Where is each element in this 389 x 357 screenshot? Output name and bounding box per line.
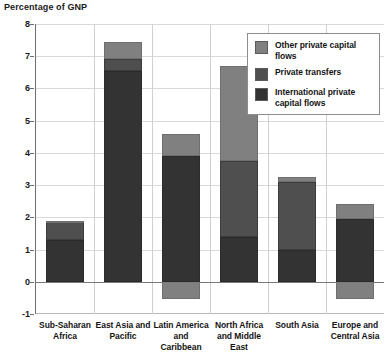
legend-item: Other private capital flows <box>255 40 373 61</box>
chart-axis-title: Percentage of GNP <box>4 2 87 12</box>
y-tick-mark <box>30 24 34 25</box>
legend-label: International private capital flows <box>275 87 373 108</box>
y-tick-mark <box>30 88 34 89</box>
chart-container: Percentage of GNP -1012345678 Sub-Sahara… <box>0 0 389 357</box>
chart-legend: Other private capital flows Private tran… <box>247 33 380 115</box>
y-tick-mark <box>30 56 34 57</box>
bar-latin-america-and-caribbean <box>162 24 200 314</box>
x-axis-label: Sub-Saharan Africa <box>36 320 94 342</box>
bar-segment <box>336 219 374 282</box>
y-tick-mark <box>30 153 34 154</box>
x-axis-label: Latin America and Caribbean <box>152 320 210 353</box>
legend-swatch-private-transfers <box>255 68 268 81</box>
legend-label: Other private capital flows <box>275 40 373 61</box>
y-tick-mark <box>30 185 34 186</box>
x-axis-label: East Asia and Pacific <box>94 320 152 342</box>
x-axis-label: South Asia <box>268 320 326 331</box>
bar-segment <box>220 161 258 237</box>
bar-sub-saharan-africa <box>46 24 84 314</box>
zero-line-rule <box>36 282 384 283</box>
legend-item: International private capital flows <box>255 87 373 108</box>
y-tick-mark <box>30 250 34 251</box>
y-tick-mark <box>30 282 34 283</box>
y-tick-mark <box>30 217 34 218</box>
bar-group <box>152 24 210 314</box>
bar-segment <box>46 221 84 223</box>
legend-label: Private transfers <box>275 67 341 78</box>
x-axis-labels: Sub-Saharan AfricaEast Asia and PacificL… <box>36 320 384 357</box>
y-axis-ticks: -1012345678 <box>0 24 34 314</box>
y-tick-mark <box>30 314 34 315</box>
bar-segment <box>46 240 84 282</box>
bar-segment <box>104 59 142 70</box>
bar-segment-negative <box>336 282 374 300</box>
bar-group <box>94 24 152 314</box>
bar-east-asia-and-pacific <box>104 24 142 314</box>
bar-segment <box>162 156 200 282</box>
y-tick-label: -1 <box>22 309 30 319</box>
legend-swatch-other-private-capital-flows <box>255 41 268 54</box>
bar-segment <box>220 237 258 282</box>
bar-segment <box>278 250 316 282</box>
x-axis-label: Europe and Central Asia <box>326 320 384 342</box>
legend-item: Private transfers <box>255 67 373 81</box>
bar-segment <box>278 177 316 182</box>
bar-segment <box>104 71 142 282</box>
bar-segment <box>336 204 374 219</box>
bar-segment <box>104 42 142 60</box>
bar-segment-negative <box>162 282 200 300</box>
bar-segment <box>46 222 84 240</box>
bar-group <box>36 24 94 314</box>
bar-segment <box>278 182 316 250</box>
y-tick-mark <box>30 121 34 122</box>
legend-swatch-international-private-capital-flows <box>255 88 268 101</box>
bar-segment <box>162 134 200 157</box>
x-axis-label: North Africa and Middle East <box>210 320 268 353</box>
